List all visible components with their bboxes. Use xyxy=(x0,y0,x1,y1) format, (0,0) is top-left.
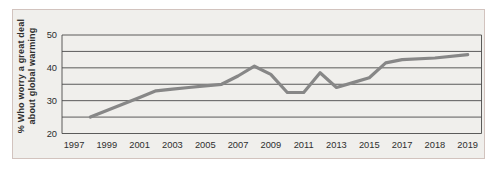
gridlines-group xyxy=(62,35,482,134)
y-tick-label: 40 xyxy=(47,63,57,73)
y-axis-title: % Who worry a great deal about global wa… xyxy=(16,16,40,136)
x-tick-label: 2013 xyxy=(326,140,347,150)
y-axis-title-line1: % Who worry a great deal xyxy=(16,16,27,136)
data-line-group xyxy=(90,55,467,117)
y-tick-label: 20 xyxy=(47,129,57,139)
x-tick-label: 2005 xyxy=(195,140,216,150)
x-axis-labels: 1997199920012003200520072009201120132015… xyxy=(64,140,478,150)
x-tick-label: 2003 xyxy=(162,140,183,150)
line-series xyxy=(90,55,467,117)
x-tick-label: 2017 xyxy=(392,140,413,150)
y-tick-label: 30 xyxy=(47,96,57,106)
y-tick-label: 50 xyxy=(47,30,57,40)
x-tick-label: 2018 xyxy=(425,140,446,150)
x-tick-label: 2011 xyxy=(294,140,314,150)
x-tick-label: 2019 xyxy=(457,140,478,150)
x-tick-label: 2009 xyxy=(261,140,282,150)
x-tick-label: 1997 xyxy=(64,140,85,150)
y-axis-labels: 20304050 xyxy=(47,30,57,139)
x-tick-label: 2015 xyxy=(359,140,380,150)
chart-canvas: 20304050 1997199920012003200520072009201… xyxy=(0,0,500,174)
x-tick-label: 2007 xyxy=(228,140,249,150)
x-tick-label: 1999 xyxy=(96,140,117,150)
y-axis-title-line2: about global warming xyxy=(27,16,38,136)
x-tick-label: 2001 xyxy=(129,140,150,150)
